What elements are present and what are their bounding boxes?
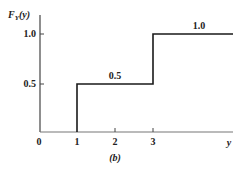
segment-label-1.0: 1.0 [193, 20, 206, 31]
x-tick-label: 3 [151, 136, 156, 147]
step-line [77, 34, 233, 132]
x-tick-label: 2 [113, 136, 118, 147]
cdf-step-chart: FY(y) 1.0 0.5 0 1 2 3 y 0.5 1.0 (b) [0, 0, 243, 169]
y-tick-label: 0.5 [24, 78, 37, 89]
x-tick-label: 0 [37, 136, 42, 147]
x-tick-label: 1 [75, 136, 80, 147]
segment-label-0.5: 0.5 [109, 70, 122, 81]
y-axis-label: FY(y) [7, 9, 30, 22]
y-tick-label: 1.0 [24, 28, 37, 39]
figure-caption: (b) [109, 152, 121, 164]
x-axis-label: y [226, 137, 232, 148]
